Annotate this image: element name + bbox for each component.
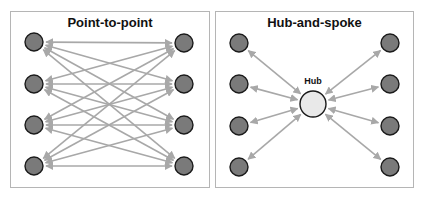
spoke-arrow bbox=[251, 87, 298, 100]
node-circle bbox=[25, 157, 43, 175]
spoke-arrow bbox=[248, 51, 300, 94]
spoke-arrow bbox=[326, 50, 381, 94]
spoke-node bbox=[381, 158, 399, 176]
p2p-arrow bbox=[46, 42, 172, 43]
connection-arrows bbox=[43, 42, 380, 166]
spoke-node bbox=[381, 117, 399, 135]
node-circle bbox=[175, 116, 193, 134]
spoke-node bbox=[230, 117, 248, 135]
node-circle bbox=[25, 116, 43, 134]
node-circle bbox=[25, 33, 43, 51]
spoke-node bbox=[381, 34, 399, 52]
spoke-node bbox=[230, 75, 248, 93]
network-diagram bbox=[0, 0, 421, 197]
hub-label: Hub bbox=[298, 76, 328, 86]
node-circle bbox=[175, 34, 193, 52]
spoke-node bbox=[381, 75, 399, 93]
spoke-node bbox=[230, 158, 248, 176]
spoke-arrow bbox=[328, 87, 378, 100]
node-circle bbox=[175, 157, 193, 175]
spoke-node bbox=[230, 34, 248, 52]
spoke-arrow bbox=[251, 109, 298, 123]
node-circle bbox=[175, 75, 193, 93]
spoke-arrow bbox=[328, 108, 378, 122]
node-circle bbox=[25, 75, 43, 93]
hub-node bbox=[300, 91, 326, 117]
